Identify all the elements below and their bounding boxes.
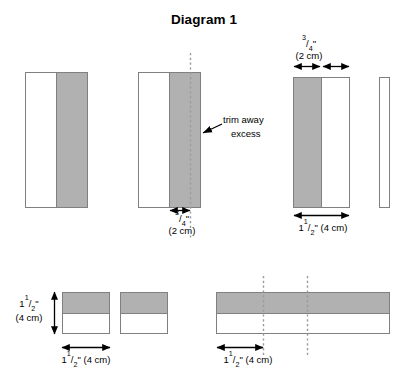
figure-5-vertical-label-metric: (4 cm) — [6, 312, 52, 324]
figure-2-dimension-label-inches: 3/4" — [152, 213, 212, 225]
fraction-numerator: 1 — [304, 217, 308, 226]
figure-3-top-label-metric: (2 cm) — [286, 50, 332, 62]
metric-suffix: (4 cm) — [318, 222, 348, 233]
metric-suffix: (4 cm) — [243, 354, 273, 365]
figure-1-white-strip — [25, 72, 57, 208]
fraction-numerator: 3 — [302, 33, 306, 42]
figure-4-excess-strip — [379, 77, 390, 208]
figure-3-bottom-label: 1 1/2" (4 cm) — [281, 222, 365, 234]
fraction-one-half: 1/2 — [229, 354, 240, 366]
fraction-numerator: 3 — [175, 208, 179, 217]
fraction-one-half: 1/2 — [67, 354, 78, 366]
figure-3-gray-strip — [293, 77, 322, 208]
figure-5-white-half — [62, 313, 110, 334]
fraction-numerator: 1 — [229, 349, 233, 358]
figure-5-vertical-label-inches: 1 1/2" — [8, 298, 50, 310]
page-title: Diagram 1 — [0, 12, 408, 27]
fraction-three-quarters: 3/4 — [175, 213, 186, 225]
figure-5-gray-half — [62, 292, 110, 314]
fraction-numerator: 1 — [67, 349, 71, 358]
inch-mark: " — [313, 38, 316, 49]
trim-away-leader-arrow — [203, 124, 222, 133]
fraction-one-half: 1/2 — [304, 222, 315, 234]
fraction-denominator: 2 — [311, 228, 315, 237]
figure-2-dimension-label-metric: (2 cm) — [152, 225, 212, 237]
figure-5-bottom-label: 1 1/2" (4 cm) — [44, 354, 128, 366]
inch-mark: " — [35, 298, 38, 309]
fraction-denominator: 2 — [236, 360, 240, 369]
inch-mark: " — [186, 213, 189, 224]
figure-7-bottom-label: 1 1/2" (4 cm) — [203, 354, 293, 366]
fraction-denominator: 2 — [74, 360, 78, 369]
figure-2-white-strip — [138, 72, 170, 208]
diagram-canvas: Diagram 1 3/4" (2 cm) trim away excess 3… — [0, 0, 408, 383]
figure-6-gray-half — [120, 292, 168, 314]
figure-7-white-half — [216, 313, 390, 334]
metric-suffix: (4 cm) — [81, 354, 111, 365]
figure-3-top-label-inches: 3/4" — [288, 38, 330, 50]
trim-away-annotation-line2: excess — [231, 128, 261, 140]
figure-7-gray-half — [216, 292, 390, 314]
trim-away-annotation-line1: trim away — [223, 114, 264, 126]
figure-1-gray-strip — [56, 72, 88, 208]
figure-3-white-strip — [321, 77, 350, 208]
fraction-numerator: 1 — [25, 293, 29, 302]
fraction-three-quarters: 3/4 — [302, 38, 313, 50]
figure-6-white-half — [120, 313, 168, 334]
fraction-one-half: 1/2 — [25, 298, 36, 310]
figure-2-gray-strip — [169, 72, 201, 208]
